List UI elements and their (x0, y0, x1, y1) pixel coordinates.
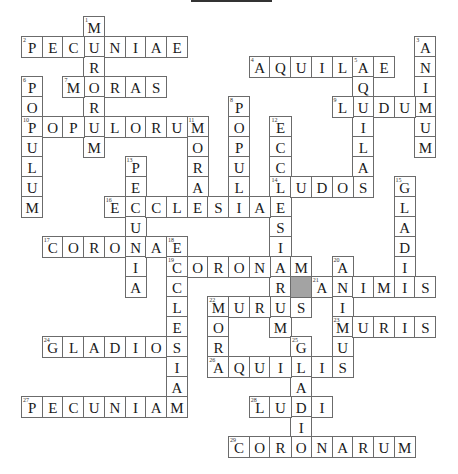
crossword-cell[interactable]: 11M (187, 116, 209, 138)
crossword-cell[interactable]: N (332, 276, 354, 298)
crossword-cell[interactable]: L (332, 56, 354, 78)
crossword-cell[interactable]: A (83, 336, 105, 358)
crossword-cell[interactable]: S (414, 276, 436, 298)
crossword-cell[interactable]: U (394, 96, 416, 118)
crossword-cell[interactable]: U (373, 436, 395, 458)
crossword-cell[interactable]: N (311, 436, 333, 458)
crossword-cell[interactable]: U (166, 116, 188, 138)
crossword-cell[interactable]: R (83, 96, 105, 118)
crossword-cell[interactable]: A (145, 236, 167, 258)
crossword-cell[interactable]: Q (228, 356, 250, 378)
crossword-cell[interactable]: O (290, 436, 312, 458)
crossword-cell[interactable]: I (269, 356, 291, 378)
crossword-cell[interactable]: 26A (207, 356, 229, 378)
crossword-cell[interactable]: R (83, 56, 105, 78)
crossword-cell[interactable]: U (21, 176, 43, 198)
crossword-cell[interactable]: I (352, 276, 374, 298)
crossword-cell[interactable]: E (42, 396, 64, 418)
crossword-cell[interactable]: 20A (332, 256, 354, 278)
crossword-cell[interactable]: I (166, 356, 188, 378)
crossword-cell[interactable]: M (290, 256, 312, 278)
crossword-cell[interactable]: O (228, 116, 250, 138)
crossword-cell[interactable]: 4A (249, 56, 271, 78)
crossword-cell[interactable]: S (166, 336, 188, 358)
crossword-cell[interactable]: I (394, 316, 416, 338)
crossword-cell[interactable]: 9L (332, 96, 354, 118)
crossword-cell[interactable]: O (145, 336, 167, 358)
crossword-cell[interactable]: M (373, 276, 395, 298)
crossword-cell[interactable]: I (394, 276, 416, 298)
crossword-cell[interactable]: A (145, 396, 167, 418)
crossword-cell[interactable]: N (125, 236, 147, 258)
crossword-cell[interactable]: N (414, 56, 436, 78)
crossword-cell[interactable]: 22M (207, 296, 229, 318)
crossword-cell[interactable]: L (166, 296, 188, 318)
crossword-cell[interactable]: 13P (125, 156, 147, 178)
crossword-cell[interactable]: U (83, 396, 105, 418)
crossword-cell[interactable]: E (187, 196, 209, 218)
crossword-cell[interactable]: R (207, 336, 229, 358)
crossword-cell[interactable]: 2P (21, 36, 43, 58)
crossword-cell[interactable]: A (352, 156, 374, 178)
crossword-cell[interactable]: L (290, 356, 312, 378)
crossword-cell[interactable]: E (166, 316, 188, 338)
crossword-cell[interactable]: 24G (42, 336, 64, 358)
crossword-cell[interactable]: 1M (83, 16, 105, 38)
crossword-cell[interactable]: L (62, 336, 84, 358)
crossword-cell[interactable]: 10P (21, 116, 43, 138)
crossword-cell[interactable]: 3A (414, 36, 436, 58)
crossword-cell[interactable]: C (125, 196, 147, 218)
crossword-cell[interactable]: A (332, 436, 354, 458)
crossword-cell[interactable]: D (311, 176, 333, 198)
crossword-cell[interactable]: Q (269, 56, 291, 78)
crossword-cell[interactable]: A (249, 196, 271, 218)
crossword-cell[interactable]: M (414, 96, 436, 118)
crossword-cell[interactable]: U (83, 36, 105, 58)
crossword-cell[interactable]: 23M (332, 316, 354, 338)
crossword-cell[interactable]: U (414, 116, 436, 138)
crossword-cell[interactable]: C (166, 276, 188, 298)
crossword-cell[interactable]: O (332, 176, 354, 198)
crossword-cell[interactable]: L (394, 196, 416, 218)
crossword-cell[interactable]: C (62, 396, 84, 418)
crossword-cell[interactable]: D (290, 396, 312, 418)
crossword-cell[interactable]: D (394, 236, 416, 258)
crossword-cell[interactable]: R (352, 436, 374, 458)
crossword-cell[interactable]: D (104, 336, 126, 358)
crossword-cell[interactable]: R (104, 76, 126, 98)
crossword-cell[interactable]: U (249, 356, 271, 378)
crossword-cell[interactable]: I (290, 416, 312, 438)
crossword-cell[interactable]: M (414, 136, 436, 158)
crossword-cell[interactable]: U (269, 296, 291, 318)
crossword-cell[interactable]: U (228, 156, 250, 178)
crossword-cell[interactable]: S (207, 196, 229, 218)
crossword-cell[interactable]: A (269, 256, 291, 278)
crossword-cell[interactable]: E (373, 56, 395, 78)
crossword-cell[interactable]: 25G (290, 336, 312, 358)
crossword-cell[interactable]: M (21, 196, 43, 218)
crossword-cell[interactable]: L (228, 176, 250, 198)
crossword-cell[interactable]: U (269, 396, 291, 418)
crossword-cell[interactable]: U (21, 136, 43, 158)
crossword-cell[interactable]: I (394, 256, 416, 278)
crossword-cell[interactable]: U (228, 296, 250, 318)
crossword-cell[interactable]: R (207, 256, 229, 278)
crossword-cell[interactable]: S (414, 316, 436, 338)
crossword-cell[interactable]: R (145, 116, 167, 138)
crossword-cell[interactable]: R (83, 236, 105, 258)
crossword-cell[interactable]: R (373, 316, 395, 338)
crossword-cell[interactable]: U (290, 56, 312, 78)
crossword-cell[interactable]: E (269, 196, 291, 218)
crossword-cell[interactable]: S (332, 356, 354, 378)
crossword-cell[interactable]: M (83, 136, 105, 158)
crossword-cell[interactable]: 7M (62, 76, 84, 98)
crossword-cell[interactable]: L (166, 196, 188, 218)
crossword-cell[interactable]: O (125, 116, 147, 138)
crossword-cell[interactable]: O (83, 76, 105, 98)
crossword-cell[interactable]: R (269, 276, 291, 298)
crossword-cell[interactable]: I (269, 236, 291, 258)
crossword-cell[interactable]: O (62, 236, 84, 258)
crossword-cell[interactable]: 28L (249, 396, 271, 418)
crossword-cell[interactable]: 12E (269, 116, 291, 138)
crossword-cell[interactable]: A (166, 376, 188, 398)
